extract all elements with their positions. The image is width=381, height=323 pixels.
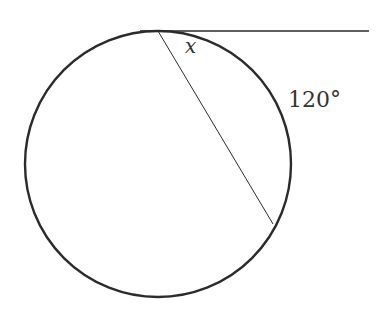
angle-label-x: x bbox=[185, 36, 196, 56]
arc-measure-label: 120° bbox=[288, 89, 341, 111]
circle bbox=[25, 31, 291, 297]
chord bbox=[158, 31, 273, 224]
